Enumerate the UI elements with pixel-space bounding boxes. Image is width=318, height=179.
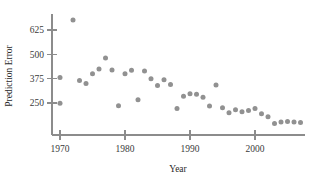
data-point bbox=[292, 120, 297, 125]
data-point-group bbox=[58, 18, 304, 126]
y-axis-title: Prediction Error bbox=[4, 44, 14, 106]
data-point bbox=[97, 66, 102, 71]
data-point bbox=[227, 110, 232, 115]
data-point bbox=[58, 101, 63, 106]
x-tick-label: 2000 bbox=[246, 144, 265, 154]
data-point bbox=[103, 56, 108, 61]
data-point bbox=[285, 119, 290, 124]
data-point bbox=[233, 107, 238, 112]
data-point bbox=[149, 76, 154, 81]
data-point bbox=[298, 120, 303, 125]
data-point bbox=[116, 103, 121, 108]
data-point bbox=[77, 78, 82, 83]
data-point bbox=[240, 109, 245, 114]
data-point bbox=[168, 82, 173, 87]
x-tick-label: 1990 bbox=[181, 144, 200, 154]
y-axis-ticks: 250375500625 bbox=[30, 25, 57, 108]
data-point bbox=[142, 68, 147, 73]
data-point bbox=[181, 94, 186, 99]
data-point bbox=[71, 18, 76, 23]
data-point bbox=[214, 82, 219, 87]
y-tick-label: 500 bbox=[30, 50, 45, 60]
data-point bbox=[259, 111, 264, 116]
data-point bbox=[110, 67, 115, 72]
plot-canvas: 250375500625 1970198019902000 Year Predi… bbox=[0, 0, 318, 179]
data-point bbox=[155, 83, 160, 88]
data-point bbox=[272, 121, 277, 126]
x-tick-label: 1980 bbox=[116, 144, 135, 154]
data-point bbox=[207, 103, 212, 108]
data-point bbox=[279, 120, 284, 125]
x-axis-title: Year bbox=[169, 164, 187, 174]
data-point bbox=[175, 106, 180, 111]
data-point bbox=[220, 105, 225, 110]
data-point bbox=[123, 71, 128, 76]
data-point bbox=[162, 77, 167, 82]
scatter-chart: 250375500625 1970198019902000 Year Predi… bbox=[0, 0, 318, 179]
data-point bbox=[136, 97, 141, 102]
data-point bbox=[188, 91, 193, 96]
data-point bbox=[84, 81, 89, 86]
data-point bbox=[129, 68, 134, 73]
data-point bbox=[201, 95, 206, 100]
data-point bbox=[266, 114, 271, 119]
x-axis-ticks: 1970198019902000 bbox=[51, 130, 265, 154]
y-tick-label: 250 bbox=[30, 98, 45, 108]
data-point bbox=[253, 106, 258, 111]
data-point bbox=[58, 75, 63, 80]
y-tick-label: 625 bbox=[30, 25, 45, 35]
data-point bbox=[246, 108, 251, 113]
data-point bbox=[90, 71, 95, 76]
data-point bbox=[194, 92, 199, 97]
y-tick-label: 375 bbox=[30, 74, 45, 84]
x-tick-label: 1970 bbox=[51, 144, 70, 154]
